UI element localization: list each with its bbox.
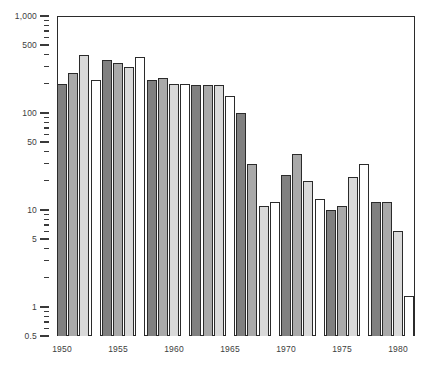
bar bbox=[57, 84, 67, 336]
y-axis-tick-minor bbox=[44, 277, 49, 278]
bar bbox=[303, 181, 313, 336]
bar bbox=[113, 63, 123, 336]
bar bbox=[68, 73, 78, 336]
y-axis-tick-minor bbox=[44, 20, 49, 21]
y-axis-tick-minor bbox=[44, 224, 49, 225]
y-axis-tick-minor bbox=[44, 328, 49, 329]
y-axis-label: 50 bbox=[27, 137, 37, 147]
y-axis-tick-minor bbox=[44, 122, 49, 123]
bar bbox=[337, 206, 347, 336]
bars-layer bbox=[57, 16, 415, 336]
y-axis: 1,0005001005010510.5 bbox=[0, 0, 57, 367]
y-axis-label: 1,000 bbox=[15, 11, 37, 21]
bar bbox=[326, 210, 336, 336]
bar bbox=[371, 202, 381, 336]
y-axis-tick-minor bbox=[44, 127, 49, 128]
bar bbox=[236, 113, 246, 336]
y-axis-tick-minor bbox=[44, 219, 49, 220]
y-axis-label: 500 bbox=[22, 40, 37, 50]
bar bbox=[180, 84, 190, 336]
bar bbox=[158, 78, 168, 336]
bar bbox=[247, 164, 257, 336]
x-axis-label: 1960 bbox=[164, 344, 184, 354]
y-axis-tick-minor bbox=[44, 83, 49, 84]
y-axis-tick-minor bbox=[44, 54, 49, 55]
bar bbox=[359, 164, 369, 336]
y-axis-tick-minor bbox=[44, 163, 49, 164]
bar bbox=[225, 96, 235, 336]
y-axis-tick-minor bbox=[44, 30, 49, 31]
y-axis-tick-major bbox=[40, 306, 49, 307]
bar bbox=[214, 85, 224, 336]
y-axis-tick-minor bbox=[44, 180, 49, 181]
x-axis-label: 1950 bbox=[52, 344, 72, 354]
bar bbox=[135, 57, 145, 336]
y-axis-tick-major bbox=[40, 44, 49, 45]
bar bbox=[124, 67, 134, 336]
bar bbox=[382, 202, 392, 336]
x-axis-label: 1955 bbox=[108, 344, 128, 354]
y-axis-tick-minor bbox=[44, 66, 49, 67]
y-axis-tick-minor bbox=[44, 316, 49, 317]
y-axis-tick-minor bbox=[44, 248, 49, 249]
y-axis-tick-major bbox=[40, 141, 49, 142]
bar bbox=[79, 55, 89, 336]
y-axis-tick-minor bbox=[44, 117, 49, 118]
x-axis-label: 1965 bbox=[220, 344, 240, 354]
y-axis-label: 100 bbox=[22, 108, 37, 118]
y-axis-tick-minor bbox=[44, 311, 49, 312]
x-axis-label: 1970 bbox=[276, 344, 296, 354]
bar bbox=[393, 231, 403, 336]
y-axis-tick-minor bbox=[44, 25, 49, 26]
y-axis-label: 1 bbox=[32, 302, 37, 312]
y-axis-tick-major bbox=[40, 238, 49, 239]
bar bbox=[315, 199, 325, 336]
y-axis-tick-minor bbox=[44, 214, 49, 215]
bar bbox=[348, 177, 358, 336]
y-axis-tick-minor bbox=[44, 134, 49, 135]
bar bbox=[404, 296, 414, 336]
bar bbox=[270, 202, 280, 336]
bar bbox=[292, 154, 302, 336]
y-axis-tick-minor bbox=[44, 231, 49, 232]
y-axis-tick-major bbox=[40, 15, 49, 16]
bar bbox=[91, 80, 101, 336]
y-axis-tick-minor bbox=[44, 321, 49, 322]
y-axis-tick-major bbox=[40, 112, 49, 113]
x-axis: 1950195519601965197019751980 bbox=[0, 336, 435, 367]
bar bbox=[147, 80, 157, 336]
y-axis-label: 5 bbox=[32, 234, 37, 244]
bar-chart: 1,0005001005010510.5 1950195519601965197… bbox=[0, 0, 435, 367]
y-axis-tick-major bbox=[40, 209, 49, 210]
x-axis-label: 1975 bbox=[332, 344, 352, 354]
y-axis-tick-minor bbox=[44, 151, 49, 152]
y-axis-label: 10 bbox=[27, 205, 37, 215]
x-axis-label: 1980 bbox=[388, 344, 408, 354]
bar bbox=[102, 60, 112, 336]
bar bbox=[259, 206, 269, 336]
bar bbox=[281, 175, 291, 336]
bar bbox=[169, 84, 179, 336]
bar bbox=[191, 85, 201, 336]
bar bbox=[203, 85, 213, 336]
y-axis-tick-minor bbox=[44, 37, 49, 38]
y-axis-tick-minor bbox=[44, 260, 49, 261]
